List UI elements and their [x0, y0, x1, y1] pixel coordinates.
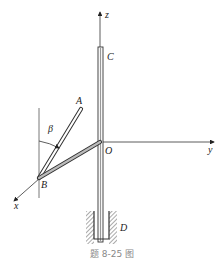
- point-b-label: B: [41, 180, 47, 190]
- x-axis: [14, 178, 40, 201]
- point-c-label: C: [107, 52, 114, 62]
- point-d-label: D: [120, 223, 127, 233]
- beta-angle-label: β: [48, 124, 53, 134]
- z-axis-label: z: [105, 10, 109, 20]
- point-a-label: A: [76, 96, 82, 106]
- y-axis-label: y: [208, 145, 212, 155]
- mechanism-diagram: [0, 0, 224, 262]
- x-axis-label: x: [14, 201, 18, 211]
- figure-caption: 题 8-25 图: [0, 247, 224, 260]
- origin-o-label: O: [105, 146, 112, 156]
